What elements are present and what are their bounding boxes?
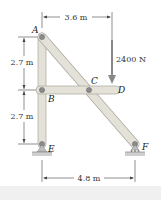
label-A: A <box>31 25 39 35</box>
dimension-bottom: 4.8 m <box>42 160 135 183</box>
pin-B <box>39 87 44 92</box>
svg-text:3.6 m: 3.6 m <box>65 13 88 22</box>
dimension-top: 3.6 m <box>42 12 112 40</box>
svg-text:2.7 m: 2.7 m <box>11 58 34 67</box>
dimension-left: 2.7 m 2.7 m <box>11 37 38 144</box>
label-F: F <box>141 142 149 152</box>
label-B: B <box>47 94 55 104</box>
label-D: D <box>117 85 125 95</box>
svg-text:2400 N: 2400 N <box>116 55 146 64</box>
pin-A <box>39 34 44 39</box>
load-arrow: 2400 N <box>108 40 146 84</box>
label-C: C <box>91 76 98 86</box>
footer-band <box>0 186 161 200</box>
frame-diagram: 3.6 m 2.7 m 2.7 m <box>0 0 161 200</box>
label-E: E <box>47 144 55 154</box>
svg-text:2.7 m: 2.7 m <box>11 112 34 121</box>
pin-C <box>86 87 91 92</box>
svg-text:4.8 m: 4.8 m <box>78 174 101 183</box>
member-BD <box>36 86 120 94</box>
